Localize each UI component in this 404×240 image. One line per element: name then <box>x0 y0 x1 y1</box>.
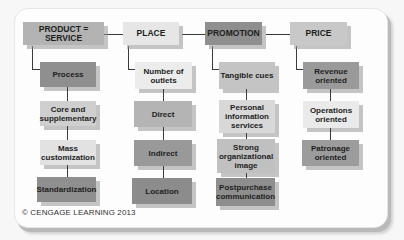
item-label: Process <box>52 70 83 79</box>
header-place: PLACE <box>123 22 179 45</box>
item-label: Number of outlets <box>135 67 192 85</box>
item-personal-information-services: Personal information services <box>219 100 275 133</box>
connector-line <box>67 126 68 140</box>
connector-line <box>67 165 68 177</box>
item-label: Operations oriented <box>303 106 359 124</box>
item-number-of-outlets: Number of outlets <box>135 62 192 89</box>
item-label: Strong organizational image <box>217 143 275 170</box>
bracket-horizontal-place <box>128 69 135 70</box>
item-operations-oriented: Operations oriented <box>303 101 359 128</box>
item-label: Personal information services <box>219 103 275 130</box>
item-label: Postpurchase communication <box>216 183 275 201</box>
connector-line <box>163 89 164 101</box>
header-label: PLACE <box>137 29 166 38</box>
item-label: Standardization <box>37 185 97 194</box>
connector-line <box>163 127 164 140</box>
connector-line <box>67 87 68 101</box>
bracket-vertical-price <box>296 46 297 69</box>
header-promotion: PROMOTION <box>205 22 262 45</box>
item-label: Indirect <box>149 149 178 158</box>
bracket-vertical-place <box>128 46 129 69</box>
item-revenue-oriented: Revenue oriented <box>303 62 359 89</box>
item-indirect: Indirect <box>134 140 192 166</box>
item-label: Patronage oriented <box>302 144 359 162</box>
header-product-service: PRODUCT = SERVICE <box>23 22 104 45</box>
item-direct: Direct <box>134 101 192 127</box>
item-label: Tangible cues <box>221 71 274 80</box>
header-label: PRODUCT = SERVICE <box>23 25 104 43</box>
header-label: PROMOTION <box>207 29 259 38</box>
item-patronage-oriented: Patronage oriented <box>302 140 359 166</box>
item-label: Location <box>145 187 178 196</box>
item-location: Location <box>132 178 192 204</box>
bracket-vertical-promotion <box>212 46 213 69</box>
item-process: Process <box>40 62 96 87</box>
bracket-horizontal-promotion <box>212 69 219 70</box>
item-postpurchase-communication: Postpurchase communication <box>216 178 275 206</box>
item-core-and-supplementary: Core and supplementary <box>40 101 96 126</box>
connector-place-promotion <box>182 34 205 35</box>
connector-line <box>163 166 164 178</box>
connector-promotion-price <box>266 34 290 35</box>
item-label: Direct <box>152 110 175 119</box>
connector-line <box>330 89 331 101</box>
item-strong-organizational-image: Strong organizational image <box>217 139 275 173</box>
bracket-horizontal-product <box>32 69 40 70</box>
copyright-text: © CENGAGE LEARNING 2013 <box>22 208 136 217</box>
header-price: PRICE <box>290 22 347 45</box>
item-mass-customization: Mass customization <box>40 140 96 165</box>
bracket-horizontal-price <box>296 69 303 70</box>
connector-line <box>246 89 247 100</box>
connector-product-place <box>104 34 123 35</box>
connector-line <box>330 128 331 140</box>
item-label: Mass customization <box>40 144 96 162</box>
bracket-vertical-product <box>32 46 33 69</box>
item-standardization: Standardization <box>37 177 96 202</box>
item-tangible-cues: Tangible cues <box>219 62 275 89</box>
item-label: Core and supplementary <box>40 105 97 123</box>
header-label: PRICE <box>306 29 332 38</box>
item-label: Revenue oriented <box>303 67 359 85</box>
